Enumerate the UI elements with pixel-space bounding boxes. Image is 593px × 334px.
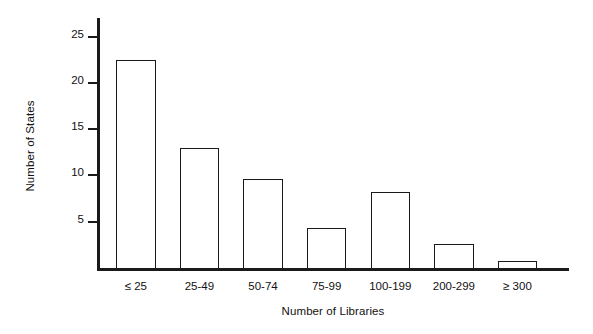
y-axis-title: Number of States <box>24 66 36 226</box>
bar <box>498 261 537 268</box>
x-axis-tick-label: 200-299 <box>433 280 475 292</box>
y-axis-tick-label: 25 <box>71 28 84 40</box>
bar <box>371 192 410 268</box>
bar <box>307 228 346 268</box>
y-axis-tick-label: 10 <box>71 166 84 178</box>
y-axis-tick-label: 5 <box>78 213 84 225</box>
y-axis-tick: 20 <box>88 82 97 84</box>
x-axis-line <box>97 268 569 271</box>
y-axis-tick-label: 20 <box>71 74 84 86</box>
bar <box>434 244 473 268</box>
x-axis-tick-label: ≥ 300 <box>503 280 532 292</box>
x-axis-tick-label: 25-49 <box>185 280 214 292</box>
x-axis-title: Number of Libraries <box>97 305 569 317</box>
x-axis-tick-label: 75-99 <box>312 280 341 292</box>
bar <box>180 148 219 268</box>
x-axis-tick-label: ≤ 25 <box>125 280 147 292</box>
x-axis-tick-label: 100-199 <box>369 280 411 292</box>
bar <box>116 60 155 268</box>
bar-chart: Number of States 510152025 ≤ 2525-4950-7… <box>0 0 593 334</box>
bar <box>243 179 282 268</box>
x-axis-tick-label: 50-74 <box>248 280 277 292</box>
plot-area: 510152025 ≤ 2525-4950-7475-99100-199200-… <box>97 18 569 271</box>
y-axis-tick: 5 <box>88 221 97 223</box>
y-axis-tick: 25 <box>88 36 97 38</box>
y-axis-tick: 15 <box>88 128 97 130</box>
y-axis-tick: 10 <box>88 174 97 176</box>
y-axis-line <box>97 18 100 271</box>
y-axis-tick-label: 15 <box>71 120 84 132</box>
